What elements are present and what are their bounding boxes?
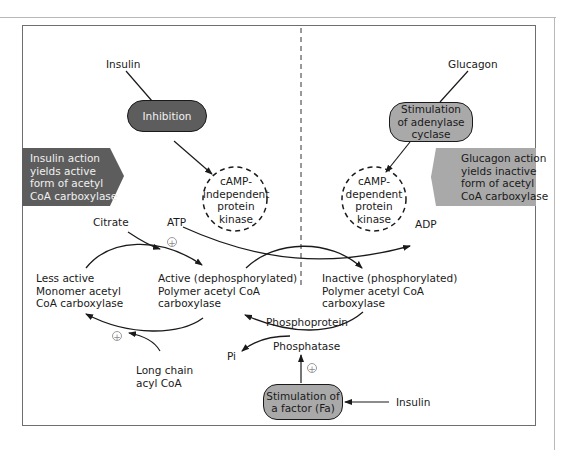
atp-label: ATP	[167, 216, 186, 229]
plus-icon-factor: +	[307, 363, 317, 373]
glucagon-label: Glucagon	[448, 58, 498, 71]
glucagon-action-banner: Glucagon action yields inactive form of …	[461, 152, 548, 202]
insulin-label-bottom: Insulin	[396, 396, 430, 409]
camp-independent-kinase-label: cAMP- independent protein kinase	[203, 175, 269, 225]
citrate-label: Citrate	[93, 216, 129, 229]
adenylase-stimulation-box: Stimulation of adenylase cyclase	[389, 102, 473, 142]
inhibition-box: Inhibition	[127, 100, 207, 132]
phosphoprotein-label: Phosphoprotein	[266, 316, 348, 329]
insulin-action-banner: Insulin action yields active form of ace…	[30, 152, 117, 202]
insulin-label-top: Insulin	[106, 58, 140, 71]
inactive-polymer-acc-label: Inactive (phosphorylated) Polymer acetyl…	[322, 272, 457, 310]
monomer-acc-label: Less active Monomer acetyl CoA carboxyla…	[36, 272, 123, 310]
pi-label: Pi	[227, 350, 236, 363]
factor-stimulation-box: Stimulation of a factor (Fa)	[263, 384, 343, 420]
phosphatase-label: Phosphatase	[273, 340, 340, 353]
plus-icon-citrate: +	[167, 237, 177, 247]
plus-icon-long-chain: +	[112, 331, 122, 341]
long-chain-acyl-coa-label: Long chain acyl CoA	[136, 364, 193, 389]
camp-dependent-kinase-label: cAMP- dependent protein kinase	[341, 175, 407, 225]
adp-label: ADP	[415, 218, 437, 231]
active-polymer-acc-label: Active (dephosphorylated) Polymer acetyl…	[158, 272, 297, 310]
